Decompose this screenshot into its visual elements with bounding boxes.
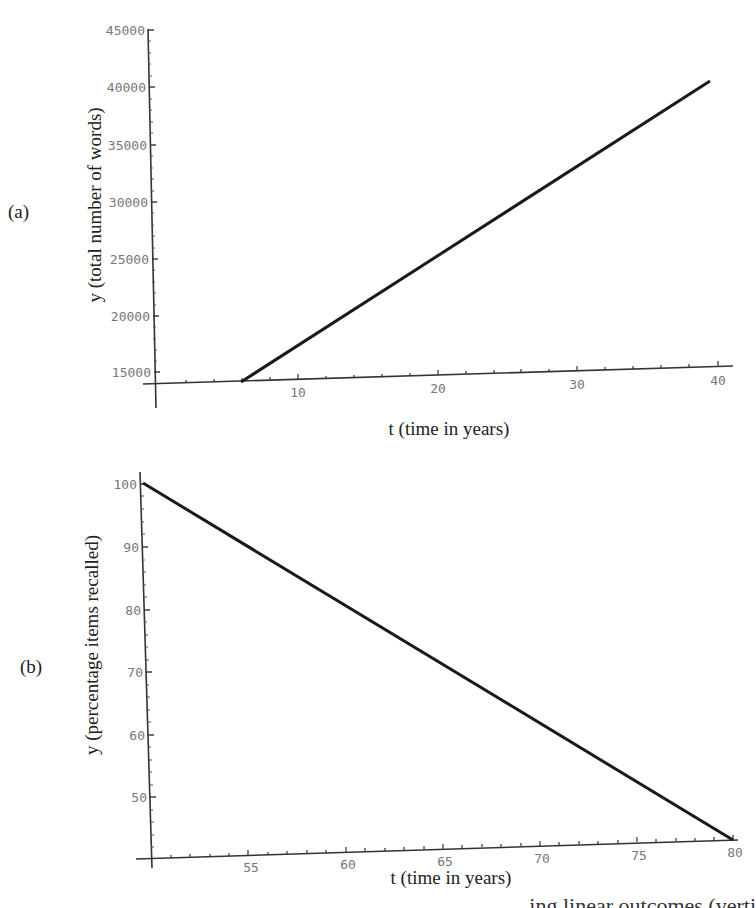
chart-b-xtick-label: 55 bbox=[243, 860, 259, 875]
figure: 45000 40000 35000 30000 25000 20000 1500… bbox=[0, 0, 756, 908]
chart-b-xtick-label: 70 bbox=[534, 851, 550, 866]
chart-b-xtick-label: 80 bbox=[727, 845, 743, 860]
chart-b-xtick-label: 75 bbox=[631, 848, 647, 863]
chart-b-ytick-label: 60 bbox=[129, 728, 145, 743]
chart-a-ytick-label: 45000 bbox=[106, 23, 145, 38]
chart-b-ytick-label: 70 bbox=[127, 665, 143, 680]
chart-a-xtick-label: 20 bbox=[430, 381, 446, 396]
chart-b-ytick-label: 80 bbox=[125, 603, 141, 618]
chart-a-ytick-label: 25000 bbox=[110, 252, 149, 267]
chart-b-ytick-label: 90 bbox=[123, 540, 139, 555]
chart-b-x-axis-title: t (time in years) bbox=[391, 867, 512, 889]
chart-b-series-line bbox=[143, 483, 733, 840]
chart-a-y-axis-title: y (total number of words) bbox=[84, 107, 106, 302]
chart-b-ytick-label: 100 bbox=[114, 477, 137, 492]
chart-a-xtick-label: 40 bbox=[710, 373, 726, 388]
chart-a-ytick-label: 15000 bbox=[112, 365, 151, 380]
chart-a-panel-label: (a) bbox=[8, 201, 29, 223]
chart-a-y-tick-labels: 45000 40000 35000 30000 25000 20000 1500… bbox=[106, 23, 151, 380]
chart-a-ytick-label: 20000 bbox=[111, 309, 150, 324]
chart-a-ytick-label: 35000 bbox=[108, 138, 147, 153]
chart-b: 100 90 80 70 60 50 55 60 65 70 bbox=[20, 472, 743, 889]
chart-a-series-line bbox=[241, 81, 710, 382]
chart-a-xtick-label: 30 bbox=[569, 377, 585, 392]
chart-a-ytick-label: 40000 bbox=[107, 80, 146, 95]
chart-a-y-axis bbox=[148, 29, 156, 408]
chart-b-xtick-label: 60 bbox=[340, 857, 356, 872]
chart-b-y-axis-title: y (percentage items recalled) bbox=[81, 535, 103, 755]
chart-a-ytick-label: 30000 bbox=[109, 195, 148, 210]
chart-a: 45000 40000 35000 30000 25000 20000 1500… bbox=[8, 23, 733, 440]
chart-b-panel-label: (b) bbox=[20, 656, 42, 678]
caption-fragment: ing linear outcomes (verti bbox=[529, 893, 756, 908]
chart-a-x-axis-title: t (time in years) bbox=[389, 418, 510, 440]
chart-a-xtick-label: 10 bbox=[290, 385, 306, 400]
chart-b-ytick-label: 50 bbox=[131, 790, 147, 805]
